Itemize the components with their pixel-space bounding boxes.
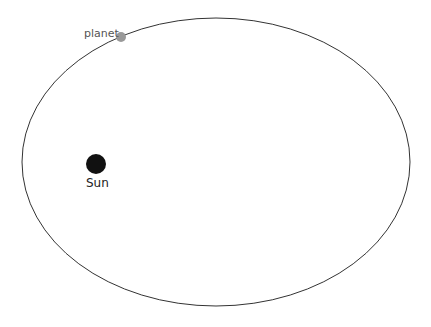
orbit-ellipse (22, 18, 410, 306)
planet-label: planet (84, 27, 119, 40)
sun-label: Sun (86, 176, 109, 190)
sun-icon (86, 154, 106, 174)
orbit-diagram (0, 0, 431, 327)
